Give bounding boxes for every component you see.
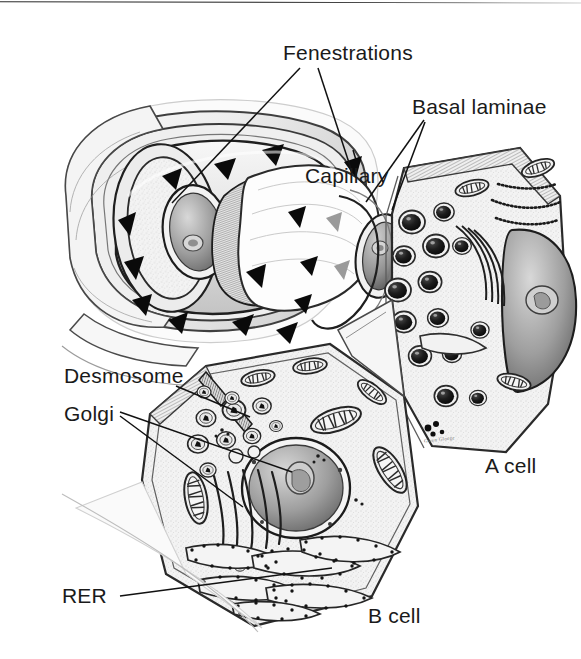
- a-cell-body: [385, 148, 576, 452]
- label-a-cell: A cell: [485, 455, 536, 476]
- label-b-cell: B cell: [368, 605, 421, 626]
- label-golgi: Golgi: [64, 403, 114, 424]
- label-capillary: Capillary: [305, 165, 389, 186]
- a-cell-nucleus: [502, 230, 576, 392]
- label-rer: RER: [62, 585, 107, 606]
- figure-canvas: Gwen Gloege Fenestrations Basal laminae …: [0, 0, 581, 659]
- label-desmosome: Desmosome: [64, 365, 184, 386]
- b-cell-body: [62, 344, 418, 632]
- label-fenestrations: Fenestrations: [283, 42, 413, 63]
- label-basal-laminae: Basal laminae: [412, 96, 547, 117]
